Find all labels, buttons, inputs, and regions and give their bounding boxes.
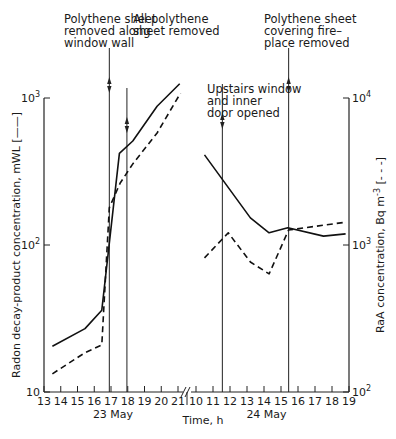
x-tick-label: 14 [54, 395, 68, 408]
event-arrow-icon [220, 122, 224, 129]
day-label: 24 May [246, 408, 287, 421]
left-y-tick-label: 102 [21, 237, 40, 252]
event-arrow-icon [107, 77, 111, 84]
x-tick-label: 15 [274, 395, 288, 408]
x-tick-label: 18 [325, 395, 339, 408]
x-tick-label: 10 [189, 395, 203, 408]
x-tick-label: 13 [240, 395, 254, 408]
x-tick-label: 21 [171, 395, 185, 408]
left-y-axis-label: Radon decay-product concentration, mWL [… [10, 112, 23, 378]
x-tick-label: 18 [121, 395, 135, 408]
x-tick-label: 16 [87, 395, 101, 408]
right-y-tick-label: 103 [352, 237, 371, 252]
labels: 1010210310210310413141516171819202123 Ma… [10, 12, 387, 427]
right-y-tick-label: 104 [352, 90, 371, 105]
event-arrow-icon [107, 86, 111, 93]
event-annotation: window wall [64, 36, 134, 50]
x-axis-label: Time, h [182, 414, 224, 427]
event-arrow-icon [125, 126, 129, 133]
raa-concentration-line [205, 222, 346, 274]
x-tick-label: 19 [342, 395, 356, 408]
axes [44, 98, 349, 405]
day-label: 23 May [93, 408, 134, 421]
event-annotation: place removed [264, 36, 350, 50]
x-tick-label: 13 [37, 395, 51, 408]
series [52, 84, 345, 374]
x-tick-label: 12 [223, 395, 237, 408]
x-tick-label: 16 [291, 395, 305, 408]
left-y-tick-label: 103 [21, 90, 40, 105]
x-tick-label: 15 [71, 395, 85, 408]
right-y-axis-label: RaA concentration, Bq m-3 [- - -] [373, 157, 387, 333]
event-lines [107, 48, 291, 392]
raa-concentration-line [52, 93, 180, 374]
radon-decay-product-line [205, 155, 346, 236]
x-tick-label: 11 [206, 395, 220, 408]
x-tick-label: 17 [104, 395, 118, 408]
x-tick-label: 14 [257, 395, 271, 408]
chart: 1010210310210310413141516171819202123 Ma… [0, 0, 396, 439]
x-tick-label: 20 [154, 395, 168, 408]
event-arrow-icon [125, 117, 129, 124]
x-tick-label: 17 [308, 395, 322, 408]
x-tick-label: 19 [138, 395, 152, 408]
event-annotation: door opened [207, 106, 280, 120]
radon-decay-product-line [52, 84, 179, 346]
event-annotation: sheet removed [133, 24, 220, 38]
